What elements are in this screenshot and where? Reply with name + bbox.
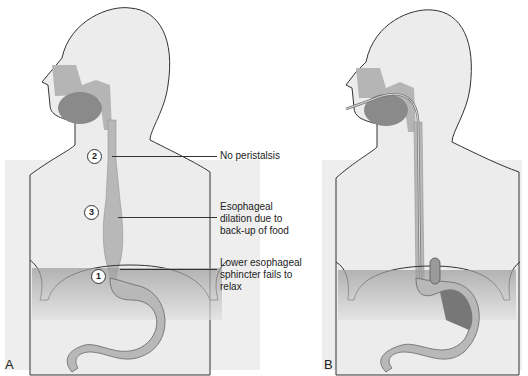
- leader-line-dilation: [118, 217, 217, 218]
- panel-letter-b: B: [324, 357, 333, 372]
- marker-1: 1: [91, 269, 106, 284]
- panel-b: B: [264, 0, 528, 376]
- leader-line-peristalsis: [112, 156, 217, 157]
- leader-line-sphincter: [120, 269, 217, 270]
- anatomy-illustration-a: [0, 0, 264, 376]
- marker-2: 2: [87, 149, 102, 164]
- panel-letter-a: A: [5, 357, 14, 372]
- panel-a: 2 3 1 A: [0, 0, 264, 376]
- anatomy-illustration-b: [264, 0, 528, 376]
- marker-3: 3: [84, 205, 99, 220]
